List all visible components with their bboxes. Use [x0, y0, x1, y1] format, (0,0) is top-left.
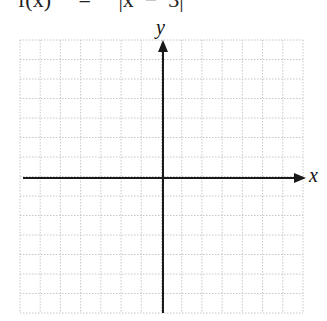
x-axis-arrow-icon — [294, 173, 306, 183]
y-axis-arrow-icon — [158, 40, 168, 52]
x-axis-label: x — [309, 164, 318, 187]
grid-lines — [20, 40, 303, 313]
coordinate-grid — [0, 0, 327, 321]
y-axis-label: y — [156, 16, 165, 39]
